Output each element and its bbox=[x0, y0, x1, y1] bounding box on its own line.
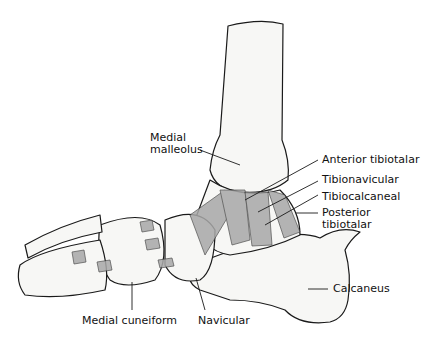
label-tibionavicular: Tibionavicular bbox=[322, 174, 399, 186]
label-posterior-tibiotalar: Posterior tibiotalar bbox=[322, 207, 372, 231]
medial-cuneiform-bone bbox=[99, 218, 164, 286]
label-line-2: malleolus bbox=[150, 144, 203, 156]
label-medial-malleolus: Medial malleolus bbox=[150, 132, 203, 156]
label-tibiocalcaneal: Tibiocalcaneal bbox=[322, 191, 400, 203]
ankle-ligament-illustration: Medial malleolus Anterior tibiotalar Tib… bbox=[0, 0, 444, 346]
label-calcaneus: Calcaneus bbox=[333, 283, 390, 295]
tibia-bone bbox=[210, 21, 288, 192]
label-line-2: tibiotalar bbox=[322, 219, 372, 231]
label-medial-cuneiform: Medial cuneiform bbox=[82, 315, 177, 327]
label-anterior-tibiotalar: Anterior tibiotalar bbox=[322, 154, 419, 166]
label-navicular: Navicular bbox=[198, 315, 250, 327]
